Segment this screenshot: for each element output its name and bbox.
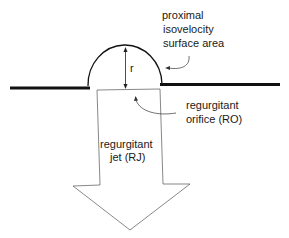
pisa-leader — [168, 56, 189, 69]
pisa-diagram: r proximal isovelocity surface area regu… — [0, 0, 289, 238]
pisa-label-line1: proximal — [162, 9, 204, 21]
radius-arrowhead-bottom — [124, 84, 128, 89]
jet-label-line2: jet (RJ) — [109, 151, 145, 163]
jet-label-line1: regurgitant — [100, 138, 153, 150]
radius-arrowhead-top — [124, 47, 128, 52]
pisa-label-line2: isovelocity — [163, 23, 214, 35]
pisa-label-line3: surface area — [163, 37, 225, 49]
orifice-leader — [136, 100, 176, 114]
radius-label: r — [130, 62, 134, 74]
orifice-leader-arrowhead — [134, 96, 138, 101]
orifice-label-line1: regurgitant — [186, 99, 239, 111]
orifice-label-line2: orifice (RO) — [186, 113, 242, 125]
pisa-leader-arrowhead — [165, 66, 170, 70]
